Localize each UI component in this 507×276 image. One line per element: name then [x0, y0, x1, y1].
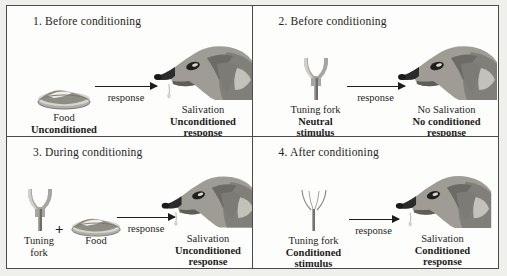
tuning-fork-icon [296, 187, 332, 233]
dog-artwork [149, 40, 253, 102]
response-label-2: response [391, 256, 495, 268]
right-arrow-icon [95, 82, 157, 91]
panel-before-conditioning-food: 1. Before conditioning Food Unconditione… [7, 6, 253, 137]
dog-artwork [157, 169, 253, 231]
response-label-2: response [393, 127, 499, 137]
panel-title: 3. During conditioning [33, 146, 143, 158]
stimulus-group: Tuning fork Conditioned stimulus [271, 187, 357, 268]
stimulus-label-1: Unconditioned [21, 124, 107, 136]
arrow-group: response [95, 82, 157, 103]
panel-before-conditioning-tuning-fork: 2. Before conditioning Tuning fork Neutr… [253, 6, 499, 137]
response-labels: Salivation Unconditioned response [157, 233, 253, 268]
arrow-label: response [95, 92, 157, 103]
panel-title: 4. After conditioning [279, 146, 379, 158]
response-labels: Salivation Conditioned response [391, 233, 495, 268]
panel-title: 1. Before conditioning [33, 15, 141, 27]
response-label-0: Salivation [157, 233, 253, 245]
conditioning-diagram: 1. Before conditioning Food Unconditione… [6, 5, 499, 269]
stimulus-label-0: Tuning fork [271, 235, 357, 247]
stimulus-label-2: stimulus [273, 127, 359, 137]
dog-artwork [393, 40, 499, 102]
response-label-1: Unconditioned [157, 245, 253, 257]
dog-artwork [391, 169, 495, 231]
tuning-fork-icon [23, 187, 57, 233]
response-group: Salivation Unconditioned response [149, 40, 253, 137]
response-label-0: No Salivation [393, 104, 499, 116]
panel-stage: Tuning fork Conditioned stimulus respons… [253, 165, 499, 268]
panel-stage: Tuning fork Neutral stimulus response [253, 34, 499, 137]
response-labels: No Salivation No conditioned response [393, 104, 499, 137]
dog-head-salivating-icon [391, 169, 495, 231]
panel-title: 2. Before conditioning [279, 15, 387, 27]
panel-stage: Food Unconditioned stimulus response [7, 34, 252, 137]
response-group: Salivation Unconditioned response [157, 169, 253, 268]
response-labels: Salivation Unconditioned response [149, 104, 253, 137]
stimulus-label-0: Tuning fork [273, 104, 359, 116]
stimulus-label-2: stimulus [271, 258, 357, 268]
response-label-2: response [157, 256, 253, 268]
stimulus-artwork [271, 187, 357, 235]
panel-stage: Tuning fork + Food respon [7, 165, 252, 268]
response-label-1: Unconditioned [149, 116, 253, 128]
dog-head-salivating-icon [149, 40, 253, 102]
plus-sign-icon: + [55, 221, 64, 238]
dog-head-icon [393, 40, 499, 102]
response-group: Salivation Conditioned response [391, 169, 495, 268]
response-group: No Salivation No conditioned response [393, 40, 499, 137]
stimulus-label-1: fork [13, 247, 65, 259]
food-bowl-icon [68, 211, 124, 237]
panel-during-conditioning: 3. During conditioning Tuning fork + [7, 137, 253, 268]
response-label-0: Salivation [149, 104, 253, 116]
response-label-1: Conditioned [391, 245, 495, 257]
dog-head-salivating-icon [157, 169, 253, 231]
tuning-fork-icon [299, 56, 333, 102]
response-label-0: Salivation [391, 233, 495, 245]
stimulus-label-1: Neutral [273, 116, 359, 128]
food-bowl-icon [34, 82, 94, 110]
response-label-2: response [149, 127, 253, 137]
panel-after-conditioning: 4. After conditioning Tuning fork Condit… [253, 137, 499, 268]
stimulus-label-1: Conditioned [271, 247, 357, 259]
response-label-1: No conditioned [393, 116, 499, 128]
stimulus-label-0: Food [21, 112, 107, 124]
